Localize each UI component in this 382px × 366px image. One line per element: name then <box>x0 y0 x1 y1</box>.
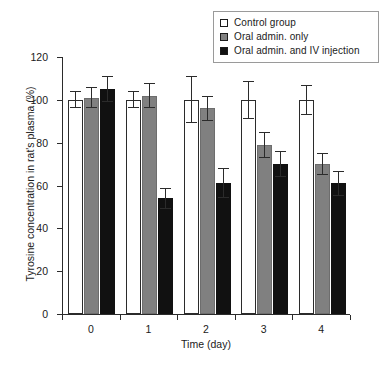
legend-item-oral: Oral admin. only <box>220 30 373 44</box>
error-bar-control-day-0 <box>68 91 83 108</box>
error-bar-cap-bottom <box>243 118 254 119</box>
error-bar-cap-top <box>144 83 155 84</box>
error-bar-stem <box>264 132 265 158</box>
error-bar-cap-top <box>160 188 171 189</box>
bar-oraliv-day-3 <box>273 164 288 314</box>
error-bar-cap-top <box>186 76 197 77</box>
legend-item-control: Control group <box>220 16 373 30</box>
error-bar-control-day-3 <box>241 81 256 120</box>
bar-oraliv-day-4 <box>331 183 346 314</box>
error-bar-oral-day-4 <box>315 153 330 174</box>
x-tick-boundary-3 <box>235 315 236 320</box>
x-tick-label-1: 1 <box>128 323 168 336</box>
y-axis-line <box>62 57 63 315</box>
bar-control-day-2 <box>184 100 199 314</box>
y-axis-title: Tyrosine concentration in rat's plasma (… <box>24 44 36 324</box>
y-tick-80: 80 <box>57 143 62 144</box>
error-bar-oral-day-1 <box>142 83 157 109</box>
error-bar-cap-bottom <box>333 195 344 196</box>
error-bar-oraliv-day-1 <box>158 188 173 209</box>
legend-label-control: Control group <box>234 16 296 30</box>
error-bar-stem <box>322 153 323 174</box>
error-bar-stem <box>149 83 150 109</box>
bar-oral-day-2 <box>200 108 215 314</box>
legend-label-oral: Oral admin. only <box>234 30 308 44</box>
y-tick-100: 100 <box>57 100 62 101</box>
y-tick-label-40: 40 <box>36 221 48 235</box>
y-tick-20: 20 <box>57 271 62 272</box>
error-bar-control-day-1 <box>126 91 141 108</box>
error-bar-cap-top <box>218 168 229 169</box>
legend-swatch-oral-iv-icon <box>220 47 228 55</box>
error-bar-oraliv-day-4 <box>331 171 346 197</box>
error-bar-cap-bottom <box>160 208 171 209</box>
error-bar-stem <box>191 76 192 123</box>
error-bar-stem <box>223 168 224 198</box>
x-tick-label-2: 2 <box>186 323 226 336</box>
x-tick-boundary-4 <box>292 315 293 320</box>
y-tick-60: 60 <box>57 186 62 187</box>
y-tick-label-60: 60 <box>36 179 48 193</box>
error-bar-cap-bottom <box>128 107 139 108</box>
error-bar-cap-bottom <box>259 157 270 158</box>
error-bar-stem <box>207 96 208 122</box>
error-bar-cap-top <box>301 85 312 86</box>
x-tick-boundary-2 <box>177 315 178 320</box>
y-tick-label-20: 20 <box>36 264 48 278</box>
bar-control-day-1 <box>126 100 141 314</box>
error-bar-cap-top <box>202 96 213 97</box>
error-bar-oraliv-day-0 <box>100 76 115 102</box>
error-bar-cap-top <box>275 151 286 152</box>
error-bar-cap-top <box>128 91 139 92</box>
error-bar-stem <box>75 91 76 108</box>
error-bar-cap-bottom <box>301 114 312 115</box>
error-bar-oral-day-2 <box>200 96 215 122</box>
error-bar-oraliv-day-2 <box>216 168 231 198</box>
error-bar-stem <box>107 76 108 102</box>
error-bar-control-day-2 <box>184 76 199 123</box>
y-tick-40: 40 <box>57 228 62 229</box>
error-bar-cap-bottom <box>218 197 229 198</box>
legend-swatch-oral-icon <box>220 33 228 41</box>
y-tick-label-0: 0 <box>42 307 48 321</box>
bar-control-day-0 <box>68 100 83 314</box>
bar-group-day-2 <box>184 57 231 315</box>
plot-area: 020406080100120 01234 <box>62 57 350 315</box>
error-bar-cap-bottom <box>186 122 197 123</box>
error-bar-cap-top <box>259 132 270 133</box>
error-bar-stem <box>133 91 134 108</box>
bar-oraliv-day-0 <box>100 89 115 314</box>
error-bar-cap-bottom <box>86 107 97 108</box>
error-bar-cap-top <box>243 81 254 82</box>
error-bar-stem <box>165 188 166 209</box>
error-bar-cap-top <box>317 153 328 154</box>
bar-oral-day-3 <box>257 145 272 314</box>
error-bar-cap-bottom <box>202 120 213 121</box>
bar-chart-figure: Control group Oral admin. only Oral admi… <box>0 0 382 366</box>
bar-control-day-4 <box>299 100 314 314</box>
error-bar-cap-bottom <box>70 107 81 108</box>
bar-oral-day-4 <box>315 164 330 314</box>
error-bar-cap-top <box>86 87 97 88</box>
bar-control-day-3 <box>241 100 256 314</box>
error-bar-stem <box>338 171 339 197</box>
error-bar-oral-day-0 <box>84 87 99 108</box>
error-bar-oraliv-day-3 <box>273 151 288 177</box>
y-tick-120: 120 <box>57 57 62 58</box>
error-bar-cap-top <box>333 171 344 172</box>
error-bar-cap-bottom <box>275 176 286 177</box>
bar-oral-day-0 <box>84 98 99 314</box>
bar-oraliv-day-1 <box>158 198 173 314</box>
x-tick-label-3: 3 <box>244 323 284 336</box>
error-bar-control-day-4 <box>299 85 314 115</box>
chart-legend: Control group Oral admin. only Oral admi… <box>213 11 379 63</box>
error-bar-stem <box>306 85 307 115</box>
bar-oral-day-1 <box>142 96 157 314</box>
y-tick-label-80: 80 <box>36 136 48 150</box>
legend-item-oral-iv: Oral admin. and IV injection <box>220 44 373 58</box>
x-tick-boundary-1 <box>120 315 121 320</box>
bar-group-day-1 <box>126 57 173 315</box>
x-tick-boundary-5 <box>350 315 351 320</box>
x-tick-boundary-0 <box>62 315 63 320</box>
legend-swatch-control-icon <box>220 19 228 27</box>
